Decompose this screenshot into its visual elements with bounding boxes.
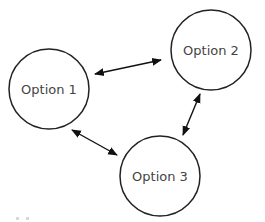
node-label: Option 3 [132,169,188,184]
cropped-label-remnant [16,217,29,220]
node-option3: Option 3 [120,136,200,216]
edge-option3-option1 [72,130,117,155]
node-option1: Option 1 [9,49,89,129]
edge-option2-option3 [183,94,200,135]
node-label: Option 2 [183,43,239,58]
edge-option1-option2 [95,60,161,74]
node-option2: Option 2 [171,10,251,90]
node-label: Option 1 [21,82,77,97]
cycle-diagram: Option 1 Option 2 Option 3 [0,0,265,222]
